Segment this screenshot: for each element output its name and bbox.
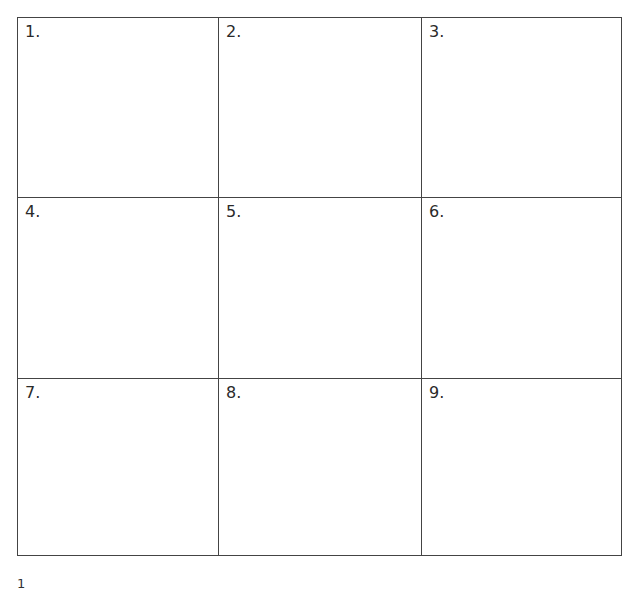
grid-cell-4: 4. [18, 198, 219, 379]
cell-number: 3. [429, 22, 444, 41]
numbered-grid: 1. 2. 3. 4. 5. 6. 7. 8. 9. [17, 17, 622, 556]
grid-cell-6: 6. [422, 198, 621, 379]
grid-cell-9: 9. [422, 379, 621, 555]
grid-cell-5: 5. [219, 198, 422, 379]
cell-number: 1. [25, 22, 40, 41]
cell-number: 7. [25, 383, 40, 402]
grid-cell-1: 1. [18, 18, 219, 198]
grid-cell-2: 2. [219, 18, 422, 198]
cell-number: 8. [226, 383, 241, 402]
grid-cell-8: 8. [219, 379, 422, 555]
page-number: 1 [17, 576, 25, 592]
cell-number: 2. [226, 22, 241, 41]
grid-cell-7: 7. [18, 379, 219, 555]
grid-cell-3: 3. [422, 18, 621, 198]
cell-number: 6. [429, 202, 444, 221]
cell-number: 5. [226, 202, 241, 221]
cell-number: 9. [429, 383, 444, 402]
cell-number: 4. [25, 202, 40, 221]
